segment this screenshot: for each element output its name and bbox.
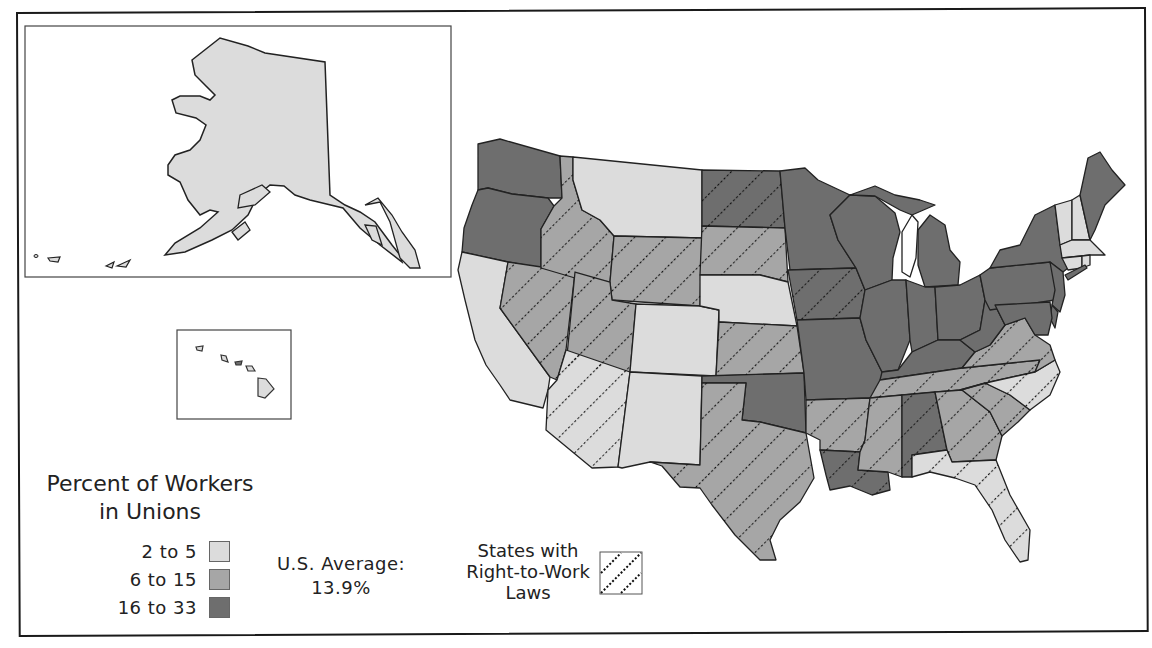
- right-to-work-swatch: [599, 551, 643, 595]
- legend-swatch-mid: [209, 569, 230, 590]
- state-new-mexico: [618, 372, 702, 468]
- lake-michigan: [902, 215, 918, 277]
- state-maine: [1080, 152, 1125, 240]
- legend-swatch-high: [209, 597, 230, 618]
- legend-item-high: 16 to 33: [60, 594, 230, 620]
- legend-label: 2 to 5: [142, 541, 197, 562]
- legend-item-mid: 6 to 15: [60, 566, 230, 592]
- legend-item-low: 2 to 5: [60, 538, 230, 564]
- legend-label: 16 to 33: [118, 597, 197, 618]
- legend-swatch-low: [209, 541, 230, 562]
- alaska-inset: [25, 26, 451, 277]
- right-to-work-overlay: [500, 156, 1060, 562]
- state-indiana: [906, 280, 938, 352]
- legend-label: 6 to 15: [130, 569, 197, 590]
- state-colorado: [630, 304, 719, 376]
- hawaii-inset: [177, 330, 291, 419]
- right-to-work-legend-label: States with Right-to-Work Laws: [458, 540, 598, 603]
- us-average: U.S. Average: 13.9%: [266, 552, 416, 600]
- legend-title: Percent of Workers in Unions: [20, 470, 280, 526]
- state-hawaii: [196, 346, 203, 351]
- state-michigan: [918, 215, 960, 287]
